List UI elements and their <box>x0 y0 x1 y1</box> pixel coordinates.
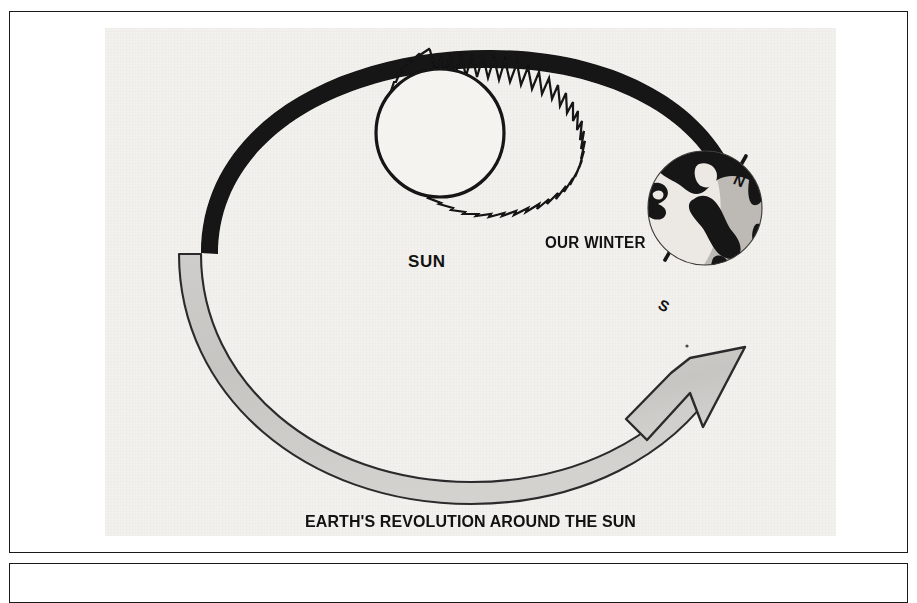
sun-label: SUN <box>408 252 446 272</box>
orbit-arrow-head-icon <box>626 347 745 440</box>
season-label-our-winter: OUR WINTER <box>545 234 646 252</box>
earth-revolution-diagram <box>105 28 836 536</box>
figure-panel: SUN OUR WINTER N S EARTH'S REVOLUTION AR… <box>105 28 836 536</box>
figure-caption: EARTH'S REVOLUTION AROUND THE SUN <box>305 512 636 531</box>
scan-speck <box>685 344 688 347</box>
sun-disc <box>376 69 504 197</box>
earth-group <box>641 150 767 284</box>
orbit-arrow-gray-segment <box>179 254 718 504</box>
page-frame-secondary <box>9 563 908 603</box>
